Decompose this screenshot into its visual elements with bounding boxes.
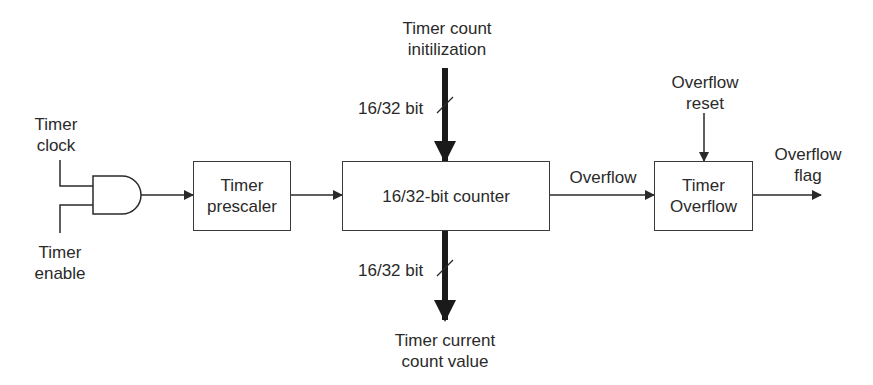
timer-enable-label: Timer enable — [28, 242, 92, 284]
overflow-flag-label: Overflow flag — [770, 144, 846, 186]
timer-overflow-block: Timer Overflow — [654, 161, 753, 231]
counter-label: 16/32-bit counter — [382, 186, 510, 207]
counter-block: 16/32-bit counter — [342, 161, 550, 231]
overflow-signal-label: Overflow — [565, 167, 641, 188]
timer-prescaler-label: Timer prescaler — [207, 175, 277, 217]
timer-overflow-label: Timer Overflow — [670, 175, 737, 217]
bus-width-top-label: 16/32 bit — [358, 98, 434, 119]
current-count-label: Timer current count value — [380, 330, 510, 372]
timer-block-diagram: Timer prescaler 16/32-bit counter Timer … — [0, 0, 873, 385]
timer-enable-wire — [60, 205, 93, 233]
timer-clock-label: Timer clock — [26, 114, 86, 156]
and-gate-icon — [93, 176, 141, 214]
timer-prescaler-block: Timer prescaler — [193, 161, 291, 231]
count-init-label: Timer count initilization — [385, 18, 509, 60]
bus-width-bottom-label: 16/32 bit — [358, 260, 434, 281]
overflow-reset-label: Overflow reset — [664, 72, 746, 114]
timer-clock-wire — [60, 160, 93, 186]
